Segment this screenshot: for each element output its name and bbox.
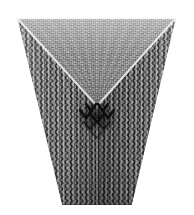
figure-root: Lattice frustum perspective render trian… [0, 0, 194, 215]
lattice-frustum-figure [0, 0, 194, 215]
